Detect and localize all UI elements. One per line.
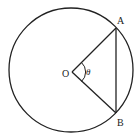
- label-o: O: [62, 68, 69, 79]
- label-b: B: [117, 117, 124, 128]
- radius-ob: [72, 72, 116, 113]
- label-theta: θ: [86, 67, 91, 77]
- label-a: A: [117, 15, 125, 26]
- circle-diagram: O A B θ: [0, 0, 140, 139]
- angle-arc: [82, 63, 86, 82]
- diagram-canvas: O A B θ: [0, 0, 140, 139]
- radius-oa: [72, 28, 116, 72]
- circle: [9, 8, 133, 132]
